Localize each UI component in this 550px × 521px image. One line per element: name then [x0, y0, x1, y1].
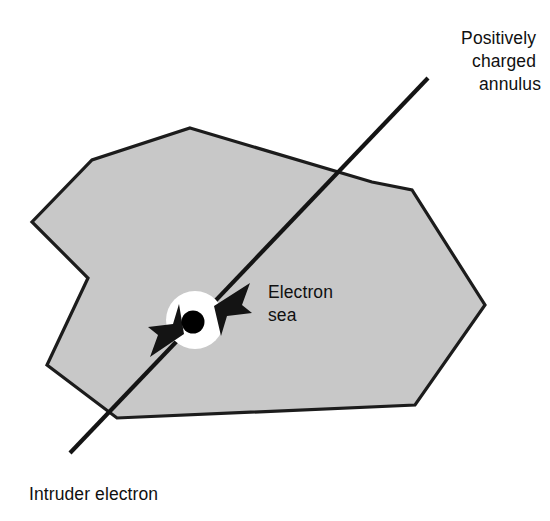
- electron-sea-polygon: [32, 128, 485, 418]
- label-positively-charged-annulus: Positively charged annulus: [461, 28, 541, 94]
- label-annulus-line2: charged: [472, 51, 536, 71]
- label-intruder-electron: Intruder electron: [29, 484, 158, 504]
- label-intruder-line1: Intruder electron: [29, 484, 158, 504]
- electron-sea-diagram: Positively charged annulus Electron sea …: [0, 0, 550, 521]
- intruder-electron-dot: [182, 311, 205, 334]
- label-annulus-line3: annulus: [479, 74, 541, 94]
- label-annulus-line1: Positively: [461, 28, 536, 48]
- label-sea-line2: sea: [268, 305, 297, 325]
- label-sea-line1: Electron: [268, 282, 333, 302]
